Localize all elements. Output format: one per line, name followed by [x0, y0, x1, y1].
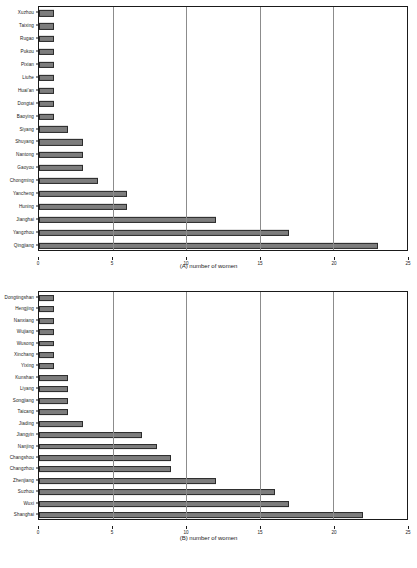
plot-area-b — [38, 291, 408, 520]
y-tick-label: Huning — [19, 203, 34, 208]
bar-row — [39, 384, 407, 395]
y-tick-label: Songjiang — [13, 397, 34, 402]
bar-series-b — [39, 292, 407, 519]
gridline-5 — [113, 292, 114, 519]
figure-two-bar-charts: XuzhouTaixingRugaoPukouPixianLiuheHuai'a… — [0, 0, 417, 568]
bar-row — [39, 429, 407, 440]
bar — [39, 352, 54, 358]
bar — [39, 398, 68, 404]
bar-row — [39, 452, 407, 463]
y-tick-label: Huai'an — [18, 87, 34, 92]
bar-row — [39, 188, 407, 201]
bar — [39, 191, 127, 197]
y-tick-label: Pixian — [21, 62, 34, 67]
y-axis-labels-b: DongtingshanHengjingNanxiangWujiangWuson… — [0, 285, 38, 568]
bar — [39, 242, 378, 248]
y-tick-label: Changshou — [10, 455, 34, 460]
y-tick-label: Rugao — [20, 36, 34, 41]
bar-row — [39, 20, 407, 33]
bar — [39, 421, 83, 427]
bar — [39, 126, 68, 132]
plot-area-wrapper-a: 0510152025 — [38, 6, 408, 269]
bar — [39, 36, 54, 42]
bar-row — [39, 200, 407, 213]
bar — [39, 139, 83, 145]
y-tick-label: Jiading — [19, 420, 34, 425]
bar-row — [39, 84, 407, 97]
x-tick-mark — [112, 257, 113, 260]
y-tick-label: Gaoyou — [17, 165, 34, 170]
bar — [39, 318, 54, 324]
y-tick-label: Wusong — [17, 340, 34, 345]
bar — [39, 444, 157, 450]
y-tick-label: Hengjing — [15, 306, 34, 311]
bar-row — [39, 149, 407, 162]
bar — [39, 62, 54, 68]
y-tick-label: Baoying — [17, 113, 34, 118]
y-tick-label: Dongtingshan — [5, 294, 34, 299]
chart-panel-a: XuzhouTaixingRugaoPukouPixianLiuheHuai'a… — [0, 0, 417, 284]
bar-row — [39, 464, 407, 475]
bar-row — [39, 372, 407, 383]
x-tick-mark — [186, 526, 187, 529]
y-tick-label: Taixing — [19, 23, 34, 28]
x-tick-mark — [260, 526, 261, 529]
x-tick-mark — [334, 257, 335, 260]
bar-row — [39, 510, 407, 521]
bar — [39, 512, 363, 518]
bar — [39, 409, 68, 415]
y-tick-label: Wuxi — [24, 500, 35, 505]
bar-row — [39, 361, 407, 372]
bar — [39, 478, 216, 484]
bar — [39, 295, 54, 301]
bar — [39, 455, 171, 461]
bar — [39, 152, 83, 158]
y-tick-label: Yangzhou — [13, 229, 34, 234]
bar-row — [39, 315, 407, 326]
chart-panel-b: DongtingshanHengjingNanxiangWujiangWuson… — [0, 285, 417, 568]
bar-row — [39, 97, 407, 110]
x-axis-title-b: (B) number of women — [0, 534, 417, 542]
x-tick-mark — [186, 257, 187, 260]
y-tick-label: Pukou — [21, 49, 35, 54]
bar-row — [39, 395, 407, 406]
x-tick-mark — [408, 257, 409, 260]
y-tick-label: Yixing — [21, 363, 34, 368]
bar — [39, 230, 289, 236]
x-tick-mark — [408, 526, 409, 529]
y-tick-label: Shuyang — [15, 139, 34, 144]
y-tick-label: Qingjiang — [14, 242, 34, 247]
bar-row — [39, 33, 407, 46]
x-tick-mark — [38, 257, 39, 260]
bar-row — [39, 71, 407, 84]
y-tick-label: Yancheng — [13, 190, 34, 195]
bar — [39, 363, 54, 369]
bar — [39, 23, 54, 29]
y-tick-label: Jiangyin — [16, 432, 34, 437]
bar-row — [39, 239, 407, 252]
y-tick-label: Xinchang — [14, 351, 34, 356]
y-tick-label: Nanjing — [18, 443, 34, 448]
bar — [39, 49, 54, 55]
bar — [39, 386, 68, 392]
bar — [39, 375, 68, 381]
bar — [39, 217, 216, 223]
bar — [39, 306, 54, 312]
bar-row — [39, 441, 407, 452]
bar — [39, 432, 142, 438]
bar — [39, 489, 275, 495]
bar — [39, 114, 54, 120]
bar-series-a — [39, 7, 407, 250]
bar-row — [39, 213, 407, 226]
bar — [39, 165, 83, 171]
bar-row — [39, 498, 407, 509]
gridline-10 — [186, 292, 187, 519]
x-tick-mark — [38, 526, 39, 529]
y-tick-label: Nantong — [16, 152, 34, 157]
gridline-20 — [333, 7, 334, 250]
x-axis-title-a: (A) number of women — [0, 262, 417, 270]
bar-row — [39, 7, 407, 20]
bar — [39, 467, 171, 473]
y-tick-label: Xuzhou — [18, 10, 34, 15]
bar-row — [39, 487, 407, 498]
